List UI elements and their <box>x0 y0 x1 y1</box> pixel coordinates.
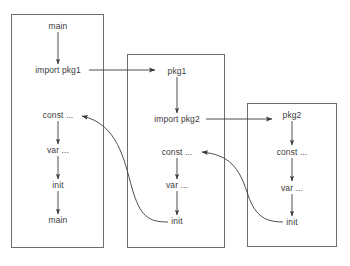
return-pkg1-init-to-main-const <box>82 116 168 222</box>
node-label-main-init: init <box>52 180 63 190</box>
node-label-pkg2-var: var ... <box>281 183 303 193</box>
return-arrows <box>82 116 283 222</box>
return-pkg2-init-to-pkg1-const <box>202 152 283 222</box>
node-label-pkg2-const: const ... <box>277 147 308 157</box>
node-label-main-import-pkg1: import pkg1 <box>35 65 81 75</box>
node-label-pkg1-import-pkg2: import pkg2 <box>154 114 200 124</box>
node-label-pkg1-const: const ... <box>162 147 193 157</box>
node-label-main-entry: main <box>49 21 68 31</box>
node-label-pkg1-init: init <box>171 216 182 226</box>
node-label-pkg1-var: var ... <box>166 180 188 190</box>
node-label-main-const: const ... <box>43 110 74 120</box>
node-label-pkg2-init: init <box>286 217 297 227</box>
node-label-pkg1-name: pkg1 <box>168 66 187 76</box>
node-label-pkg2-name: pkg2 <box>283 110 302 120</box>
node-label-main-var: var ... <box>47 145 69 155</box>
import-arrows <box>89 70 272 119</box>
package-init-diagram: mainimport pkg1const ...var ...initmainp… <box>0 0 350 266</box>
node-label-main-func-main: main <box>49 215 68 225</box>
